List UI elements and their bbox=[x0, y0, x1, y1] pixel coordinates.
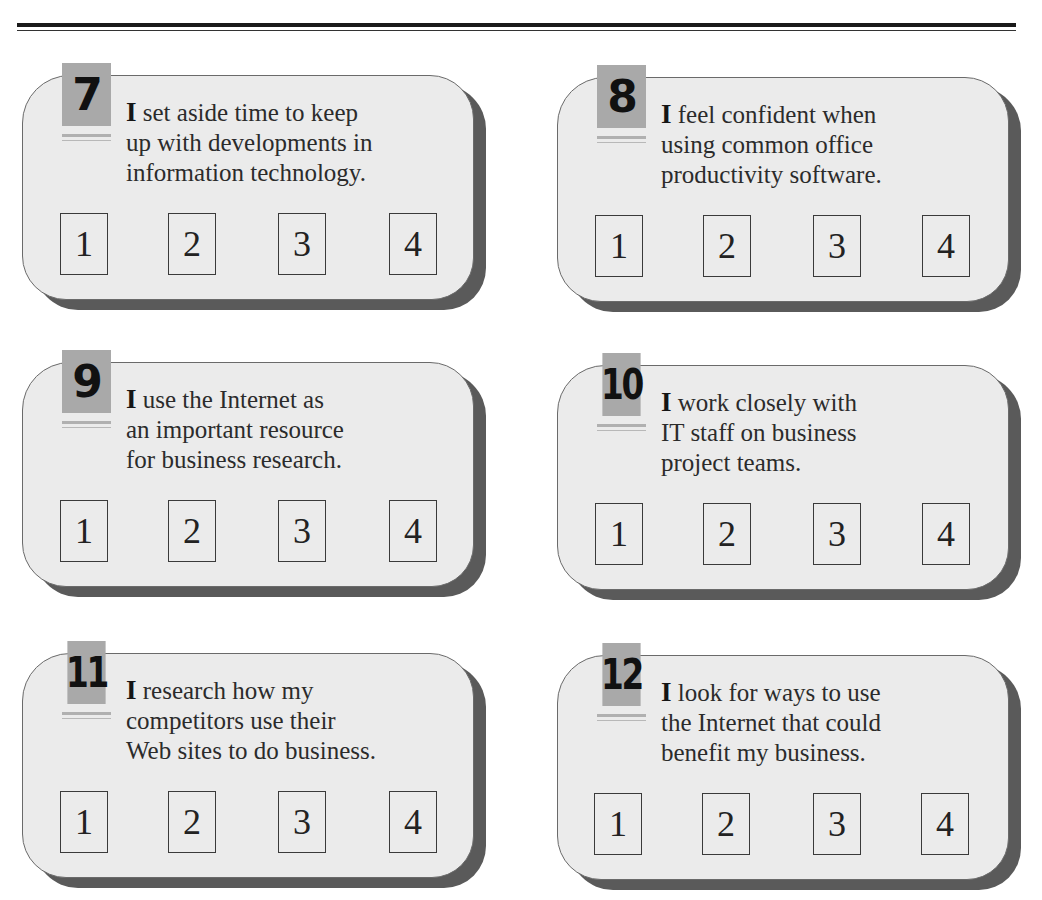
statement-line: competitors use their bbox=[126, 706, 456, 736]
badge-underline-thin bbox=[62, 427, 111, 428]
badge-underline bbox=[597, 424, 646, 427]
badge-underline-thin bbox=[597, 142, 646, 143]
rating-option-3[interactable]: 3 bbox=[278, 500, 326, 562]
header-rule-thin bbox=[17, 30, 1016, 31]
rating-option-2[interactable]: 2 bbox=[703, 215, 751, 277]
rating-option-1[interactable]: 1 bbox=[60, 500, 108, 562]
statement-card-9: 9 I use the Internet as an important res… bbox=[22, 362, 474, 587]
statement-line: research how my bbox=[137, 677, 314, 704]
rating-option-4[interactable]: 4 bbox=[389, 500, 437, 562]
badge-underline bbox=[62, 134, 111, 137]
rating-option-3[interactable]: 3 bbox=[813, 793, 861, 855]
statement-text: I set aside time to keep up with develop… bbox=[126, 97, 456, 188]
statement-lead: I bbox=[661, 387, 672, 417]
statement-line: the Internet that could bbox=[661, 708, 991, 738]
statement-text: I research how my competitors use their … bbox=[126, 675, 456, 766]
rating-option-1[interactable]: 1 bbox=[594, 793, 642, 855]
badge-underline bbox=[597, 714, 646, 717]
statement-text: I use the Internet as an important resou… bbox=[126, 384, 456, 475]
statement-lead: I bbox=[126, 675, 137, 705]
statement-line: up with developments in bbox=[126, 128, 456, 158]
rating-option-2[interactable]: 2 bbox=[168, 500, 216, 562]
rating-option-3[interactable]: 3 bbox=[278, 791, 326, 853]
statement-lead: I bbox=[126, 97, 137, 127]
rating-option-2[interactable]: 2 bbox=[168, 213, 216, 275]
statement-line: project teams. bbox=[661, 448, 991, 478]
rating-option-4[interactable]: 4 bbox=[922, 503, 970, 565]
statement-lead: I bbox=[126, 384, 137, 414]
rating-option-1[interactable]: 1 bbox=[595, 215, 643, 277]
statement-line: Web sites to do business. bbox=[126, 736, 456, 766]
badge-underline-thin bbox=[62, 140, 111, 141]
rating-option-4[interactable]: 4 bbox=[922, 215, 970, 277]
rating-option-1[interactable]: 1 bbox=[60, 213, 108, 275]
rating-option-4[interactable]: 4 bbox=[921, 793, 969, 855]
statement-line: using common office bbox=[661, 130, 991, 160]
item-number-badge: 11 bbox=[67, 641, 105, 704]
rating-option-3[interactable]: 3 bbox=[278, 213, 326, 275]
statement-line: look for ways to use bbox=[672, 679, 881, 706]
badge-underline-thin bbox=[597, 720, 646, 721]
statement-line: feel confident when bbox=[672, 101, 877, 128]
item-number-badge: 9 bbox=[62, 350, 111, 413]
badge-underline bbox=[597, 136, 646, 139]
statement-line: set aside time to keep bbox=[137, 99, 358, 126]
statement-text: I feel confident when using common offic… bbox=[661, 99, 991, 190]
rating-option-4[interactable]: 4 bbox=[389, 213, 437, 275]
item-number-badge: 7 bbox=[62, 63, 111, 126]
statement-card-12: 12 I look for ways to use the Internet t… bbox=[557, 655, 1009, 880]
statement-line: productivity software. bbox=[661, 160, 991, 190]
item-number-badge: 12 bbox=[602, 643, 640, 706]
statement-text: I look for ways to use the Internet that… bbox=[661, 677, 991, 768]
badge-underline bbox=[62, 712, 111, 715]
statement-line: benefit my business. bbox=[661, 738, 991, 768]
statement-line: IT staff on business bbox=[661, 418, 991, 448]
rating-option-2[interactable]: 2 bbox=[702, 793, 750, 855]
badge-underline-thin bbox=[597, 430, 646, 431]
statement-line: information technology. bbox=[126, 158, 456, 188]
statement-line: for business research. bbox=[126, 445, 456, 475]
rating-option-2[interactable]: 2 bbox=[168, 791, 216, 853]
header-rule-thick bbox=[17, 23, 1016, 27]
item-number-badge: 10 bbox=[602, 353, 640, 416]
rating-option-3[interactable]: 3 bbox=[813, 215, 861, 277]
statement-card-11: 11 I research how my competitors use the… bbox=[22, 653, 474, 878]
rating-option-3[interactable]: 3 bbox=[813, 503, 861, 565]
statement-lead: I bbox=[661, 677, 672, 707]
rating-option-1[interactable]: 1 bbox=[60, 791, 108, 853]
item-number-badge: 8 bbox=[597, 65, 646, 128]
statement-line: work closely with bbox=[672, 389, 857, 416]
rating-option-4[interactable]: 4 bbox=[389, 791, 437, 853]
statement-lead: I bbox=[661, 99, 672, 129]
statement-line: use the Internet as bbox=[137, 386, 324, 413]
statement-card-8: 8 I feel confident when using common off… bbox=[557, 77, 1009, 302]
statement-card-10: 10 I work closely with IT staff on busin… bbox=[557, 365, 1009, 590]
statement-text: I work closely with IT staff on business… bbox=[661, 387, 991, 478]
rating-option-2[interactable]: 2 bbox=[703, 503, 751, 565]
statement-line: an important resource bbox=[126, 415, 456, 445]
badge-underline-thin bbox=[62, 718, 111, 719]
rating-option-1[interactable]: 1 bbox=[595, 503, 643, 565]
badge-underline bbox=[62, 421, 111, 424]
statement-card-7: 7 I set aside time to keep up with devel… bbox=[22, 75, 474, 300]
